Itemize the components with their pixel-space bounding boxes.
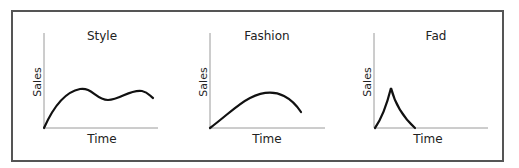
fad-chart xyxy=(374,33,488,128)
style-x-label: Time xyxy=(87,132,116,146)
fashion-title: Fashion xyxy=(244,29,289,43)
fad-title: Fad xyxy=(426,29,447,43)
fad-curve xyxy=(375,88,415,128)
fashion-chart xyxy=(210,33,325,128)
fashion-x-label: Time xyxy=(252,132,281,146)
fad-x-label: Time xyxy=(413,132,442,146)
style-curve xyxy=(44,89,153,128)
fashion-y-label: Sales xyxy=(197,67,210,96)
style-title: Style xyxy=(87,29,117,43)
style-y-label: Sales xyxy=(31,67,44,96)
style-chart xyxy=(44,33,158,128)
fashion-curve xyxy=(210,93,301,128)
fad-y-label: Sales xyxy=(361,67,374,96)
